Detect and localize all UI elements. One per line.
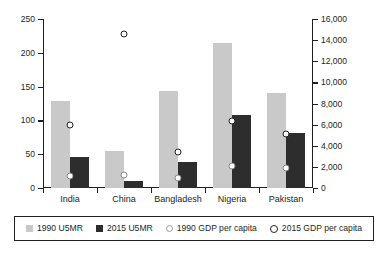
marker-1990-gdp-per-capita [283,164,290,171]
right-axis-tick [313,104,318,105]
square-dark-swatch-icon [96,225,103,232]
category-label-bangladesh: Bangladesh [154,195,202,204]
marker-2015-gdp-per-capita [121,30,128,37]
marker-2015-gdp-per-capita [175,149,182,156]
category-axis-tick [43,188,44,193]
bar-group [159,19,197,188]
bar-1990-u5mr [105,151,124,188]
bar-group [213,19,251,188]
chart-legend: 1990 U5MR 2015 U5MR 1990 GDP per capita … [14,216,374,241]
category-axis-tick [205,188,206,193]
right-axis-tick-label: 8,000 [321,99,342,108]
left-axis-tick-label: 250 [21,15,35,24]
legend-label: 1990 GDP per capita [177,224,257,233]
right-axis-tick-label: 6,000 [321,120,342,129]
legend-item-1990-u5mr: 1990 U5MR [26,224,83,233]
marker-2015-gdp-per-capita [229,118,236,125]
right-axis-tick [313,82,318,83]
left-axis-tick-label: 100 [21,116,35,125]
right-axis-tick-label: 2,000 [321,163,342,172]
square-light-swatch-icon [26,225,33,232]
left-axis-tick [38,53,43,54]
right-axis-tick-label: 0 [321,184,326,193]
right-axis-tick [313,167,318,168]
legend-item-1990-gdp: 1990 GDP per capita [166,224,257,233]
bar-1990-u5mr [267,93,286,188]
bar-2015-u5mr [124,181,143,188]
legend-label: 2015 GDP per capita [282,224,362,233]
bar-group [51,19,89,188]
legend-label: 1990 U5MR [37,224,83,233]
right-axis-tick-label: 16,000 [321,15,347,24]
category-axis-tick [151,188,152,193]
marker-1990-gdp-per-capita [229,162,236,169]
legend-item-2015-u5mr: 2015 U5MR [96,224,153,233]
right-axis-tick-label: 12,000 [321,57,347,66]
left-axis-tick [38,120,43,121]
left-axis-line [43,19,44,188]
left-axis-tick-label: 200 [21,49,35,58]
bar-2015-u5mr [286,133,305,188]
right-axis-tick [313,19,318,20]
legend-label: 2015 U5MR [107,224,153,233]
right-axis-tick [313,40,318,41]
left-axis-tick [38,87,43,88]
chart-root: 050100150200250 02,0004,0006,0008,00010,… [0,0,390,256]
left-axis-tick [38,154,43,155]
category-axis-tick [97,188,98,193]
bar-1990-u5mr [159,91,178,188]
right-axis-tick [313,61,318,62]
right-axis-tick-label: 14,000 [321,36,347,45]
bar-group [105,19,143,188]
category-axis-tick [313,188,314,193]
category-label-india: India [60,195,80,204]
marker-1990-gdp-per-capita [175,174,182,181]
left-axis-tick [38,19,43,20]
right-axis-tick [313,125,318,126]
bar-2015-u5mr [70,157,89,188]
left-axis-tick-label: 50 [26,150,35,159]
left-axis-tick-label: 0 [30,184,35,193]
marker-2015-gdp-per-capita [67,121,74,128]
right-axis-tick-label: 10,000 [321,78,347,87]
marker-2015-gdp-per-capita [283,131,290,138]
category-label-china: China [112,195,136,204]
right-axis-tick [313,146,318,147]
bar-2015-u5mr [232,115,251,188]
plot-area: 050100150200250 02,0004,0006,0008,00010,… [43,19,313,188]
circle-open-light-marker-icon [166,225,173,232]
category-label-pakistan: Pakistan [269,195,304,204]
bar-group [267,19,305,188]
left-axis-tick-label: 150 [21,82,35,91]
right-axis-tick-label: 4,000 [321,142,342,151]
legend-item-2015-gdp: 2015 GDP per capita [270,224,362,233]
category-axis-tick [259,188,260,193]
circle-open-dark-marker-icon [270,225,278,233]
category-label-nigeria: Nigeria [218,195,247,204]
marker-1990-gdp-per-capita [121,172,128,179]
marker-1990-gdp-per-capita [67,173,74,180]
